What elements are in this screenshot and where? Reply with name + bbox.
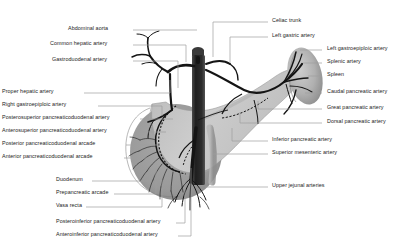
leader-gastroduodenal-artery [133,61,178,88]
leader-anteroinferior-pancreaticoduodenal-artery [178,168,191,236]
label-left-gastroepiploic-artery: Left gastroepiploic artery [327,46,388,51]
label-great-pancreatic-artery: Great pancreatic artery [327,105,384,110]
label-anterosuperior-pancreaticoduodenal-artery: Anterosuperior pancreaticoduodenal arter… [2,128,107,133]
leader-inferior-pancreatic-artery [232,128,268,141]
label-posterior-pancreaticoduodenal-arcade: Posterior pancreaticoduodenal arcade [2,141,95,146]
label-anterior-pancreaticoduodenal-arcade: Anterior pancreaticoduodenal arcade [2,154,93,159]
label-common-hepatic-artery: Common hepatic artery [50,41,107,46]
label-upper-jejunal-arteries: Upper jejunal arteries [272,183,325,188]
label-posteroinferior-pancreaticoduodenal-artery: Posteroinferior pancreaticoduodenal arte… [56,219,160,224]
label-vasa-recta: Vasa recta [56,203,82,208]
label-dorsal-pancreatic-artery: Dorsal pancreatic artery [327,119,386,124]
label-left-gastric-artery: Left gastric artery [272,33,315,38]
leader-left-gastric-artery [230,37,268,63]
label-proper-hepatic-artery: Proper hepatic artery [2,89,54,94]
leader-common-hepatic-artery [133,45,186,62]
label-splenic-artery: Splenic artery [327,59,361,64]
label-celiac-trunk: Celiac trunk [272,18,301,23]
label-superior-mesenteric-artery: Superior mesenteric artery [272,150,337,155]
label-right-gastroepiploic-artery: Right gastroepiploic artery [2,102,66,107]
label-duodenum: Duodenum [56,177,83,182]
leader-dorsal-pancreatic-artery [240,112,322,123]
label-abdominal-aorta: Abdominal aorta [68,26,108,31]
leader-posteroinferior-pancreaticoduodenal-artery [176,172,185,223]
anatomical-figure: Abdominal aortaCommon hepatic arteryGast… [0,0,404,248]
leader-duodenum [92,170,150,181]
label-posterosuperior-pancreaticoduodenal-artery: Posterosuperior pancreaticoduodenal arte… [2,115,109,120]
label-spleen: Spleen [327,72,344,77]
label-inferior-pancreatic-artery: Inferior pancreatic artery [272,137,332,142]
label-gastroduodenal-artery: Gastroduodenal artery [52,57,107,62]
leader-great-pancreatic-artery [258,101,322,109]
label-caudal-pancreatic-artery: Caudal pancreatic artery [327,89,387,94]
label-prepancreatic-arcade: Prepancreatic arcade [56,190,108,195]
label-anteroinferior-pancreaticoduodenal-artery: Anteroinferior pancreaticoduodenal arter… [56,232,158,237]
leader-proper-hepatic-artery [84,80,170,93]
leader-celiac-trunk [213,22,268,57]
